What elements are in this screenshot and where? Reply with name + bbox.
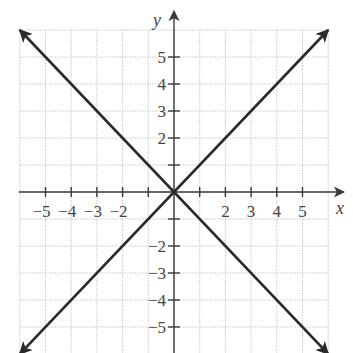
x-tick-label: −5 — [32, 202, 50, 221]
y-tick-label: −3 — [148, 264, 166, 283]
x-tick-label: 4 — [273, 202, 282, 221]
x-tick-label: 3 — [247, 202, 256, 221]
y-tick-label: 5 — [158, 48, 167, 67]
x-tick-label: −3 — [84, 202, 102, 221]
y-tick-label: −4 — [148, 291, 167, 310]
x-tick-label: −4 — [58, 202, 77, 221]
x-tick-label: 2 — [221, 202, 230, 221]
y-tick-label: 4 — [158, 75, 167, 94]
axes — [19, 11, 344, 353]
x-tick-label: 5 — [298, 202, 307, 221]
x-tick-label: −2 — [110, 202, 128, 221]
x-axis-label: x — [335, 198, 344, 218]
y-tick-label: 2 — [158, 129, 167, 148]
y-tick-label: −5 — [148, 318, 166, 337]
y-tick-label: −2 — [148, 237, 166, 256]
y-tick-label: 3 — [158, 102, 167, 121]
y-axis-label: y — [151, 10, 161, 30]
coordinate-plane: −5−4−3−223455432−2−3−4−5 x y — [0, 0, 353, 353]
